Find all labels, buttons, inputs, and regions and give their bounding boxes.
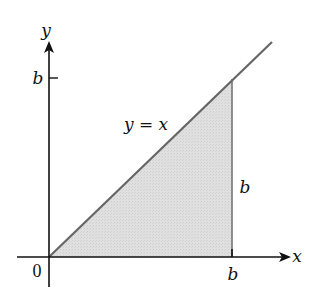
x-axis-label: x <box>292 246 302 266</box>
y-axis-label: y <box>40 20 51 40</box>
diagram-canvas: y x 0 b b y = x b <box>0 0 327 305</box>
side-length-label: b <box>240 177 251 197</box>
curve-label: y = x <box>123 114 169 134</box>
y-tick-label: b <box>33 68 44 88</box>
origin-label: 0 <box>33 261 42 281</box>
x-tick-label: b <box>228 264 239 284</box>
diagram-svg: y x 0 b b y = x b <box>0 0 327 305</box>
